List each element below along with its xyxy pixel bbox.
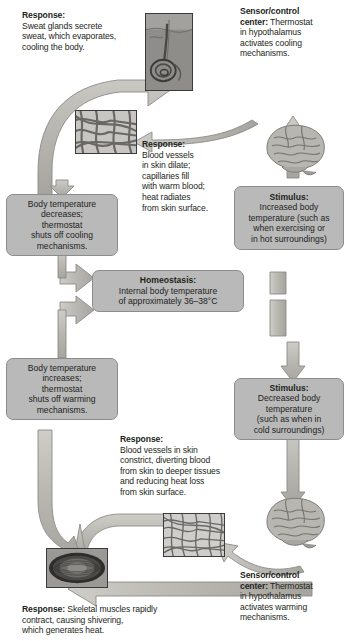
callout-line: activates warming	[240, 602, 307, 612]
homeostasis-line: of approximately 36–38°C	[119, 296, 218, 306]
box-title: Stimulus:	[269, 192, 308, 202]
shivering-response-callout: Response: Skeletal muscles rapidly contr…	[22, 604, 232, 636]
callout-line: from skin to deeper tissues	[120, 466, 220, 476]
dilated-capillaries-micrograph	[75, 110, 137, 154]
callout-line: Blood vessels in skin	[120, 445, 198, 455]
box-line: increases;	[42, 373, 81, 383]
box-body-temp-decreases: Body temperature decreases; thermostat s…	[6, 194, 118, 256]
cooling-sensor-callout: Sensor/control center: Thermostat in hyp…	[240, 6, 346, 59]
box-line: thermostat	[42, 220, 83, 230]
callout-lead: Sensor/control	[240, 570, 299, 580]
box-line: Body temperature	[28, 363, 96, 373]
callout-lead: Response:	[22, 10, 65, 20]
sweat-gland-micrograph	[145, 13, 193, 91]
box-line: in hot surroundings)	[251, 234, 327, 244]
box-line: (such as when in	[257, 414, 322, 424]
callout-line: sweat, which evaporates,	[22, 31, 116, 41]
box-line: shuts off warming	[28, 394, 95, 404]
callout-lead-rest: Skeletal muscles rapidly	[65, 604, 157, 614]
callout-line: from skin surface.	[120, 487, 186, 497]
callout-lead-rest: Thermostat	[268, 17, 313, 27]
box-line: Decreased body	[258, 393, 321, 403]
warming-sensor-callout: Sensor/control center: Thermostat in hyp…	[240, 570, 346, 623]
callout-line: in hypothalamus	[240, 27, 301, 37]
callout-line: cooling the body.	[22, 42, 85, 52]
box-title: Stimulus:	[269, 383, 308, 393]
box-line: decreases;	[41, 209, 83, 219]
callout-line: with warm blood;	[142, 181, 205, 191]
box-line: mechanisms.	[37, 405, 88, 415]
callout-line: in skin dilate;	[142, 160, 190, 170]
callout-line: heat radiates	[142, 192, 190, 202]
brain-hypothalamus-illustration	[258, 118, 332, 178]
vasoconstriction-response-callout: Response: Blood vessels in skin constric…	[120, 434, 252, 498]
box-line: mechanisms.	[37, 241, 88, 251]
callout-line: mechanisms.	[240, 612, 290, 622]
constricted-capillaries-micrograph	[163, 513, 225, 557]
callout-lead-rest: Thermostat	[268, 581, 313, 591]
homeostasis-line: Internal body temperature	[119, 286, 217, 296]
box-line: temperature (such as	[248, 213, 329, 223]
box-line: shuts off cooling	[31, 230, 93, 240]
callout-line: which generates heat.	[22, 625, 104, 635]
callout-line: Sweat glands secrete	[22, 21, 102, 31]
skeletal-muscle-micrograph	[46, 548, 108, 588]
box-line: thermostat	[42, 384, 83, 394]
box-body-temp-increases: Body temperature increases; thermostat s…	[6, 358, 118, 420]
box-homeostasis: Homeostasis: Internal body temperature o…	[92, 270, 244, 312]
callout-lead: Response:	[22, 604, 65, 614]
callout-line: constrict, diverting blood	[120, 455, 210, 465]
homeostasis-title: Homeostasis:	[140, 275, 196, 285]
box-line: when exercising or	[253, 223, 325, 233]
box-line: Body temperature	[28, 199, 96, 209]
brain-hypothalamus-illustration-lower	[258, 490, 332, 552]
thermoregulation-diagram: Response: Sweat glands secrete sweat, wh…	[0, 0, 348, 641]
box-line: temperature	[266, 404, 312, 414]
callout-line: capillaries fill	[142, 171, 189, 181]
callout-line: mechanisms.	[240, 48, 290, 58]
callout-lead-2: center:	[240, 17, 268, 27]
callout-line: and reducing heat loss	[120, 476, 204, 486]
box-stimulus-decreased: Stimulus: Decreased body temperature (su…	[234, 378, 344, 440]
callout-line: from skin surface.	[142, 203, 208, 213]
callout-line: Blood vessels	[142, 150, 194, 160]
callout-line: in hypothalamus	[240, 591, 301, 601]
callout-lead: Sensor/control	[240, 6, 299, 16]
callout-lead: Response:	[142, 139, 185, 149]
box-line: Increased body	[260, 202, 319, 212]
sweat-response-callout: Response: Sweat glands secrete sweat, wh…	[22, 10, 144, 52]
callout-line: activates cooling	[240, 38, 302, 48]
callout-line: contract, causing shivering,	[22, 615, 123, 625]
box-stimulus-increased: Stimulus: Increased body temperature (su…	[234, 186, 344, 250]
callout-lead: Response:	[120, 434, 163, 444]
vasodilation-response-callout: Response: Blood vessels in skin dilate; …	[142, 139, 242, 213]
box-line: cold surroundings)	[254, 425, 325, 435]
callout-lead-2: center:	[240, 581, 268, 591]
